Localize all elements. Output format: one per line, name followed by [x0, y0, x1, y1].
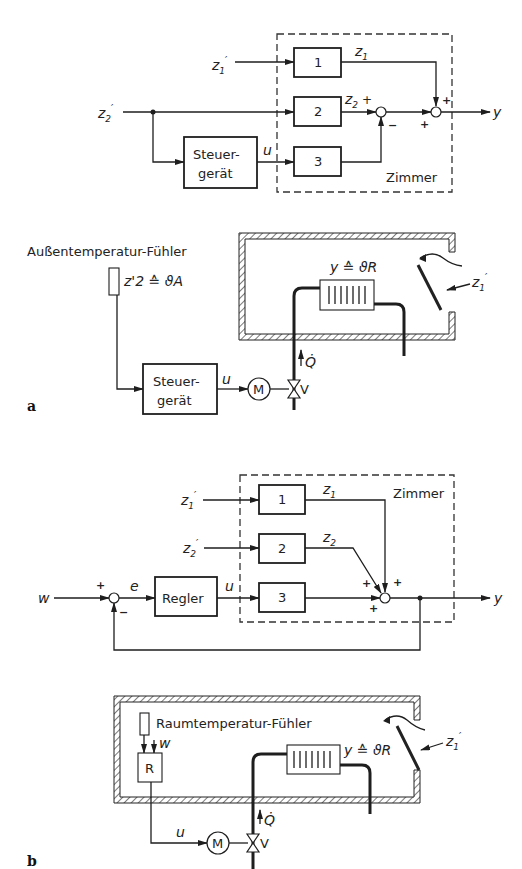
- valve-icon: [288, 389, 300, 398]
- controller-label-line1: Steuer-: [193, 147, 240, 162]
- signal-u-label: u: [263, 142, 272, 158]
- valve-icon: [288, 380, 300, 389]
- sum2-plus-left: +: [420, 118, 429, 131]
- sum1-minus-sign: −: [388, 119, 397, 132]
- block-2-label: 2: [314, 104, 322, 119]
- radiator-fins-icon: [294, 751, 330, 768]
- room-temperature-label: y ≙ ϑR: [329, 259, 377, 275]
- figure-b-schematic: z1′ Raumtemperatur-Fühler w R y ≙ ϑR Q̇ …: [27, 696, 462, 869]
- heat-flow-label: Q̇: [305, 354, 316, 370]
- outdoor-sensor: [109, 268, 119, 295]
- block-1-label: 1: [314, 55, 322, 70]
- valve-icon: [247, 834, 259, 843]
- block-2-label: 2: [278, 541, 286, 556]
- diagram-canvas: Zimmer z1′ 1 z1 z2′ 2 z2 + − + + y Steue…: [0, 0, 522, 869]
- valve-icon: [247, 843, 259, 852]
- output-y-label: y: [493, 590, 503, 606]
- valve-label: V: [260, 836, 269, 851]
- error-e-label: e: [130, 578, 139, 594]
- input-z1-prime: z1′: [211, 55, 228, 76]
- arrow-icon: [383, 716, 390, 724]
- panel-label-a: a: [27, 398, 36, 414]
- motor-label: M: [253, 382, 264, 397]
- signal-line: [117, 295, 143, 389]
- sum2-plus-top: +: [442, 94, 451, 107]
- air-flow-curve: [420, 254, 462, 266]
- setpoint-w-label: w: [159, 735, 171, 751]
- window-icon: [418, 265, 441, 310]
- heat-flow-label: Q̇: [264, 812, 275, 828]
- disturbance-z1-label: z1′: [471, 272, 488, 293]
- sum1-plus: +: [96, 579, 105, 592]
- controller-label: R: [145, 761, 154, 776]
- panel-label-b: b: [27, 853, 37, 869]
- signal-z2-label: z2: [322, 529, 336, 548]
- reference-w-label: w: [38, 590, 50, 606]
- signal-u-label: u: [225, 578, 234, 594]
- output-y-label: y: [492, 104, 502, 120]
- figure-b-block-diagram: Zimmer z1′ 1 z1 z2′ 2 z2 w + − e Regler …: [38, 475, 503, 650]
- summing-junction-1: [376, 107, 386, 117]
- controller-label-line1: Steuer-: [153, 374, 200, 389]
- plant-label: Zimmer: [386, 170, 438, 185]
- input-z2-prime: z2′: [182, 538, 199, 559]
- sensor-value-label: z'2 ≙ ϑA: [123, 273, 183, 289]
- sum2-plus-u: +: [369, 602, 378, 615]
- signal-z1-label: z1: [354, 43, 368, 62]
- room-temperature-label: y ≙ ϑR: [343, 742, 391, 758]
- controller-label-line2: gerät: [157, 393, 192, 408]
- sum2-plus-z2: +: [362, 577, 371, 590]
- room-sensor: [140, 713, 149, 735]
- block-3-label: 3: [314, 154, 322, 169]
- summing-junction-plant: [380, 593, 390, 603]
- input-z2-prime: z2′: [97, 103, 114, 124]
- summing-junction-2: [431, 107, 441, 117]
- sensor-label: Raumtemperatur-Fühler: [156, 716, 312, 731]
- disturbance-z1-label: z1′: [445, 731, 462, 752]
- window-icon: [397, 726, 419, 770]
- sensor-label: Außentemperatur-Fühler: [27, 244, 187, 259]
- signal-z1-label: z1: [322, 481, 336, 500]
- signal-line: [153, 112, 184, 162]
- block-3-label: 3: [278, 590, 286, 605]
- signal-u-label: u: [176, 824, 185, 840]
- signal-line: [305, 500, 385, 592]
- return-pipe: [374, 304, 404, 356]
- radiator-fins-icon: [329, 286, 365, 304]
- figure-a-schematic: z1′ y ≙ ϑR Q̇ Außentemperatur-Fühler z'2…: [27, 233, 488, 414]
- figure-a-block-diagram: Zimmer z1′ 1 z1 z2′ 2 z2 + − + + y Steue…: [97, 34, 502, 192]
- sum2-plus-z1: +: [393, 576, 402, 589]
- controller-label-line2: gerät: [198, 166, 233, 181]
- plant-label: Zimmer: [393, 486, 445, 501]
- valve-label: V: [300, 382, 309, 397]
- block-1-label: 1: [278, 492, 286, 507]
- disturbance-arrow: [421, 743, 443, 750]
- return-pipe: [340, 765, 370, 814]
- summing-junction-error: [109, 593, 119, 603]
- signal-line: [341, 117, 381, 162]
- disturbance-arrow: [447, 284, 470, 290]
- signal-z2-label: z2 +: [344, 91, 372, 110]
- controller-label: Regler: [162, 591, 204, 606]
- motor-label: M: [212, 836, 223, 851]
- signal-u-label: u: [222, 371, 231, 387]
- sum1-minus: −: [119, 606, 128, 619]
- input-z1-prime: z1′: [180, 490, 197, 511]
- radiator: [287, 745, 340, 774]
